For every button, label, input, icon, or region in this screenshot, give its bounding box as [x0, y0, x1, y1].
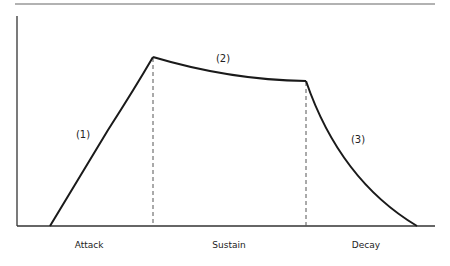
sustain-marker: (2)	[216, 53, 230, 64]
envelope-diagram	[0, 0, 450, 266]
decay-marker: (3)	[351, 134, 365, 145]
sustain-label: Sustain	[212, 240, 245, 250]
decay-curve	[306, 81, 417, 226]
attack-curve	[50, 57, 153, 226]
attack-marker: (1)	[76, 129, 90, 140]
attack-label: Attack	[75, 240, 104, 250]
decay-label: Decay	[352, 240, 380, 250]
